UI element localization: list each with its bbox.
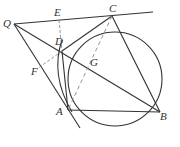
label-C: C (109, 3, 116, 14)
diagram-canvas (0, 0, 180, 147)
label-Q: Q (3, 18, 11, 29)
label-B: B (160, 111, 167, 122)
line-QA (14, 24, 80, 128)
label-G: G (90, 57, 98, 68)
label-D: D (55, 36, 63, 47)
label-A: A (56, 106, 63, 117)
label-E: E (54, 7, 61, 18)
label-F: F (31, 66, 38, 77)
geometry-diagram: Q E C D F G A B (0, 0, 180, 147)
line-QC (14, 12, 153, 24)
